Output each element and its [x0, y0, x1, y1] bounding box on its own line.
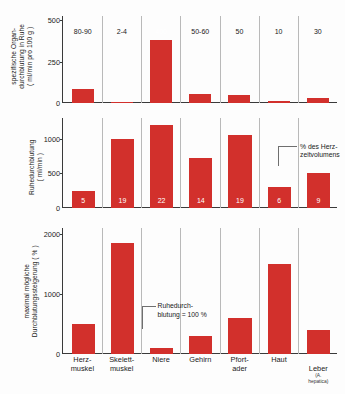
- bar-value-haut: 6: [277, 197, 281, 204]
- category-label-leber-subnote: (A. hepatica): [308, 373, 328, 385]
- panel3-ytick-0: 0: [56, 350, 60, 359]
- bar-herzmuskel: [72, 324, 95, 354]
- bar-niere: [150, 348, 173, 354]
- bar-value-haut: 10: [275, 28, 283, 35]
- panel2-separator: [141, 118, 142, 208]
- bar-value-skelettmuskel: 19: [119, 197, 127, 204]
- panel3-separator: [298, 228, 299, 354]
- panel1-plot-area: 500 250 0 80-90 2-4 400 50-60 50 10 30: [62, 16, 337, 103]
- bar-value-pfortader: 50: [236, 28, 244, 35]
- panel1-separator: [102, 16, 103, 103]
- bar-gehirn: [189, 336, 212, 354]
- category-label-pfortader: Pfort- ader: [231, 356, 249, 373]
- panel1-tickmark-250: [60, 62, 63, 63]
- panel2-ytick-500: 500: [48, 169, 60, 178]
- panel1-ytick-250: 250: [48, 57, 60, 66]
- panel1-ytick-0: 0: [56, 99, 60, 108]
- category-label-leber-main: Leber: [309, 364, 328, 373]
- bar-pfortader: [228, 95, 250, 103]
- blood-flow-bar-chart-figure: spezifische Organ- durchblutung in Ruhe …: [0, 0, 345, 394]
- bar-value-leber: 9: [316, 197, 320, 204]
- panel2-tickmark-500: [60, 173, 63, 174]
- bar-value-herzmuskel: 80-90: [74, 28, 92, 35]
- category-label-haut: Haut: [271, 356, 287, 365]
- panel3-separator: [180, 228, 181, 354]
- panel1-y-axis-label: spezifische Organ- durchblutung in Ruhe …: [10, 13, 35, 99]
- panel3-separator: [102, 228, 103, 354]
- bar-value-herzmuskel: 5: [81, 197, 85, 204]
- category-label-gehirn: Gehirn: [189, 356, 211, 365]
- panel1-tickmark-500: [60, 20, 63, 21]
- panel2-separator: [298, 118, 299, 208]
- panel1-separator: [141, 16, 142, 103]
- panel3-tickmark-1000: [60, 294, 63, 295]
- panel2-separator: [220, 118, 221, 208]
- bar-value-pfortader: 19: [236, 197, 244, 204]
- panel3-ytick-1000: 1000: [44, 289, 60, 298]
- panel2-separator: [102, 118, 103, 208]
- panel3-separator: [141, 228, 142, 354]
- panel1-separator: [180, 16, 181, 103]
- bar-value-gehirn: 50-60: [191, 28, 209, 35]
- bar-value-gehirn: 14: [197, 197, 205, 204]
- panel2-ytick-0: 0: [56, 204, 60, 213]
- category-axis: Herz- muskel Skelett- muskel Niere Gehir…: [62, 356, 337, 392]
- panel1-ytick-500: 500: [48, 16, 60, 25]
- bar-value-skelettmuskel: 2-4: [117, 28, 127, 35]
- panel3-annotation-text: Ruhedurch- blutung = 100 %: [158, 302, 207, 319]
- panel2-tickmark-1000: [60, 139, 63, 140]
- panel3-separator: [220, 228, 221, 354]
- panel2-ytick-1000: 1000: [44, 134, 60, 143]
- category-label-herzmuskel: Herz- muskel: [71, 356, 94, 373]
- bar-value-niere: 22: [158, 197, 166, 204]
- bar-haut: [268, 264, 291, 354]
- bar-gehirn: [189, 94, 211, 103]
- panel1-separator: [259, 16, 260, 103]
- category-label-niere: Niere: [152, 356, 170, 365]
- panel2-separator: [180, 118, 181, 208]
- panel3-ytick-2000: 2000: [44, 229, 60, 238]
- panel3-plot-area: 2000 1000 0 Ruhedurch- blutung = 100 %: [62, 228, 337, 354]
- bar-skelettmuskel: [111, 102, 133, 103]
- bar-leber: [307, 330, 330, 354]
- panel2-y-axis-label: Ruhedurchblutung ( ml/min ): [28, 126, 44, 208]
- bar-leber: [307, 98, 329, 103]
- bar-skelettmuskel: [111, 243, 134, 354]
- panel1-separator: [298, 16, 299, 103]
- panel2-plot-area: 1000 500 0 5 19 22 14 19 6 9: [62, 118, 337, 208]
- category-label-skelettmuskel: Skelett- muskel: [109, 356, 134, 373]
- panel1-separator: [220, 16, 221, 103]
- panel2-separator: [259, 118, 260, 208]
- panel3-annotation-leader: [142, 306, 156, 329]
- bar-pfortader: [228, 318, 251, 354]
- category-label-leber: Leber (A. hepatica): [308, 356, 328, 394]
- panel3-separator: [259, 228, 260, 354]
- bar-value-niere: 400: [155, 28, 167, 35]
- bar-value-leber: 30: [314, 28, 322, 35]
- panel3-y-axis-label: maximal mögliche Durchblutungssteigerung…: [23, 230, 39, 352]
- panel2-annotation-leader: [278, 146, 297, 166]
- bar-niere: [150, 40, 172, 103]
- panel2-annotation-text: % des Herz- zeitvolumens: [300, 143, 340, 160]
- bar-haut: [268, 101, 290, 103]
- bar-herzmuskel: [72, 89, 94, 103]
- panel3-tickmark-2000: [60, 234, 63, 235]
